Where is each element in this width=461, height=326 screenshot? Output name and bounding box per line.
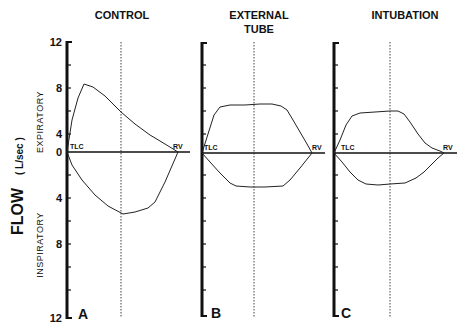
ytick-8-top: 8: [56, 82, 62, 94]
rv-label-b: RV: [312, 144, 322, 151]
panel-letter-c: C: [341, 305, 351, 321]
panel-b-title-line1: EXTERNAL: [229, 9, 289, 21]
panel-c-title: INTUBATION: [371, 9, 438, 21]
panel-c-axis: [333, 42, 457, 318]
panel-b-expiratory-curve: [202, 104, 312, 153]
ytick-12-bot: 12: [50, 312, 62, 324]
panel-b-inspiratory-curve: [202, 153, 312, 187]
unit-axis-label: ( L/sec ): [14, 137, 25, 175]
ytick-8-bot: 8: [56, 238, 62, 250]
flow-axis-label: FLOW: [9, 187, 26, 235]
panel-b-axis: [201, 42, 325, 318]
panel-a-axis: [66, 41, 190, 319]
panel-letter-b: B: [211, 305, 221, 321]
rv-label-c: RV: [443, 144, 453, 151]
ytick-4-top: 4: [56, 128, 63, 140]
ytick-0: 0: [56, 146, 62, 158]
ytick-4-bot: 4: [56, 192, 63, 204]
flow-volume-chart: CONTROL EXTERNAL TUBE INTUBATION FLOW ( …: [0, 0, 461, 326]
panel-c-inspiratory-curve: [334, 153, 444, 185]
expiratory-label: EXPIRATORY: [35, 91, 45, 153]
panel-a-title: CONTROL: [95, 9, 150, 21]
tlc-label-b: TLC: [204, 144, 218, 151]
ytick-12-top: 12: [50, 36, 62, 48]
panel-letter-a: A: [78, 306, 88, 322]
inspiratory-label: INSPIRATORY: [35, 212, 45, 278]
panel-a-inspiratory-curve: [67, 152, 178, 214]
tlc-label-c: TLC: [341, 144, 355, 151]
tlc-label-a: TLC: [70, 143, 84, 150]
rv-label-a: RV: [173, 143, 183, 150]
panel-b-title-line2: TUBE: [244, 23, 274, 35]
panel-a-expiratory-curve: [67, 84, 178, 152]
